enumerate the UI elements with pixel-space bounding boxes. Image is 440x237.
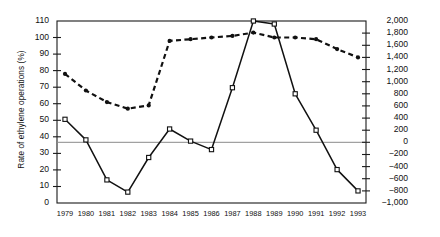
chart-figure: Rate of ethylene operations (%) Operatin…: [0, 0, 440, 237]
data-point-marker: [209, 35, 213, 39]
right-axis-tick-label: 1,400: [374, 51, 408, 61]
left-axis-tick-label: 60: [23, 98, 49, 108]
left-axis-tick-label: 30: [23, 147, 49, 157]
data-point-marker: [230, 86, 234, 90]
data-point-marker: [147, 155, 151, 159]
data-point-marker: [272, 22, 276, 26]
data-point-marker: [189, 139, 193, 143]
data-point-marker: [251, 19, 255, 23]
right-axis-tick-label: −1,000: [374, 197, 408, 207]
data-point-marker: [209, 148, 213, 152]
data-point-marker: [63, 117, 67, 121]
left-axis-tick-label: 100: [23, 32, 49, 42]
data-point-marker: [335, 168, 339, 172]
data-point-marker: [251, 30, 255, 34]
right-axis-tick-label: −800: [374, 185, 408, 195]
data-point-marker: [314, 128, 318, 132]
data-point-marker: [168, 39, 172, 43]
right-axis-tick-label: 400: [374, 112, 408, 122]
left-axis-tick-label: 20: [23, 164, 49, 174]
right-axis-tick-label: 600: [374, 100, 408, 110]
left-axis-tick-label: 90: [23, 48, 49, 58]
data-point-marker: [335, 47, 339, 51]
data-point-marker: [230, 34, 234, 38]
data-point-marker: [105, 178, 109, 182]
right-axis-tick-label: 1,800: [374, 27, 408, 37]
right-axis-tick-label: −200: [374, 148, 408, 158]
right-axis-tick-label: −600: [374, 173, 408, 183]
data-point-marker: [63, 72, 67, 76]
right-axis-tick-label: 1,200: [374, 64, 408, 74]
left-axis-tick-label: 110: [23, 15, 49, 25]
left-axis-tick-label: 40: [23, 131, 49, 141]
left-axis-tick-label: 50: [23, 114, 49, 124]
left-axis-tick-label: 80: [23, 65, 49, 75]
x-axis-tick-label: 1993: [343, 209, 373, 218]
right-axis-tick-label: 1,000: [374, 76, 408, 86]
data-point-marker: [293, 35, 297, 39]
data-point-marker: [84, 88, 88, 92]
data-point-marker: [126, 107, 130, 111]
right-axis-tick-label: 1,600: [374, 39, 408, 49]
data-point-marker: [126, 190, 130, 194]
right-axis-tick-label: −400: [374, 161, 408, 171]
data-point-marker: [168, 127, 172, 131]
plot-frame: [57, 21, 366, 203]
data-point-marker: [189, 37, 193, 41]
data-point-marker: [356, 55, 360, 59]
right-axis-tick-label: 800: [374, 88, 408, 98]
data-point-marker: [105, 100, 109, 104]
left-axis-tick-label: 10: [23, 180, 49, 190]
right-axis-tick-label: 2,000: [374, 15, 408, 25]
data-point-marker: [314, 37, 318, 41]
data-point-marker: [272, 35, 276, 39]
left-axis-tick-label: 0: [23, 197, 49, 207]
data-point-marker: [293, 92, 297, 96]
data-point-marker: [84, 138, 88, 142]
right-axis-tick-label: 200: [374, 124, 408, 134]
data-point-marker: [356, 189, 360, 193]
right-axis-tick-label: 0: [374, 136, 408, 146]
data-point-marker: [147, 103, 151, 107]
left-axis-tick-label: 70: [23, 81, 49, 91]
